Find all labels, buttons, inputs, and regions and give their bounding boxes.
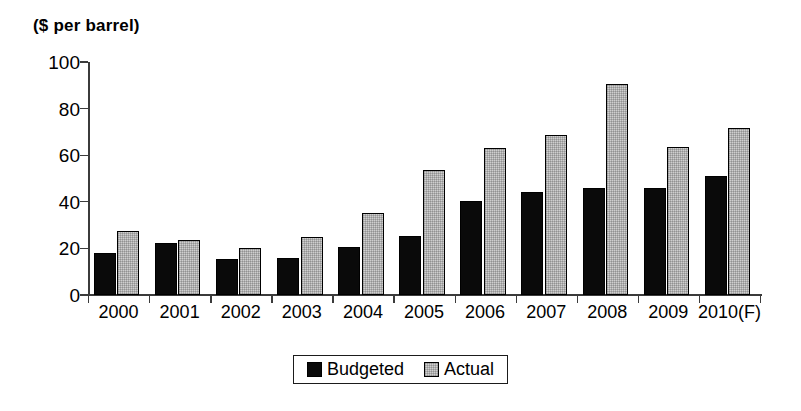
x-tick-mark <box>638 296 639 303</box>
bar-actual-2007 <box>545 135 567 295</box>
x-tick-label: 2004 <box>343 303 383 323</box>
x-tick-label: 2009 <box>648 303 688 323</box>
bar-group <box>88 62 149 295</box>
x-tick-mark <box>271 296 272 303</box>
x-tick-mark <box>88 296 89 303</box>
y-tick-label: 0 <box>34 286 80 305</box>
bar-actual-2009 <box>667 147 689 295</box>
y-axis-tick-labels: 020406080100 <box>26 62 80 295</box>
bar-budgeted-2007 <box>521 192 543 295</box>
bar-group <box>271 62 332 295</box>
y-tick-label: 60 <box>34 146 80 165</box>
x-tick-mark <box>455 296 456 303</box>
bar-group <box>149 62 210 295</box>
y-tick-mark <box>80 248 88 249</box>
bar-actual-2010F <box>728 128 750 295</box>
legend-swatch-icon <box>307 362 322 377</box>
x-tick-mark <box>516 296 517 303</box>
x-tick-label: 2010(F) <box>698 303 761 323</box>
y-tick-mark <box>80 294 88 295</box>
bar-group <box>577 62 638 295</box>
y-tick-label: 20 <box>34 239 80 258</box>
bar-group <box>332 62 393 295</box>
bar-actual-2005 <box>423 170 445 295</box>
chart-legend: BudgetedActual <box>293 355 508 384</box>
bar-budgeted-2006 <box>460 201 482 295</box>
bar-actual-2002 <box>239 248 261 295</box>
bar-budgeted-2000 <box>94 253 116 295</box>
bar-budgeted-2001 <box>155 243 177 295</box>
bar-actual-2001 <box>178 240 200 295</box>
x-tick-label: 2001 <box>160 303 200 323</box>
bar-budgeted-2003 <box>277 258 299 295</box>
legend-entry-budgeted: Budgeted <box>307 360 404 378</box>
x-tick-label: 2008 <box>587 303 627 323</box>
bar-group <box>455 62 516 295</box>
bar-budgeted-2008 <box>583 188 605 295</box>
y-tick-label: 100 <box>34 53 80 72</box>
y-tick-mark <box>80 155 88 156</box>
bar-chart-figure: ($ per barrel) 020406080100 200020012002… <box>0 0 801 411</box>
x-tick-mark <box>210 296 211 303</box>
chart-title: ($ per barrel) <box>33 16 140 36</box>
bar-budgeted-2005 <box>399 236 421 295</box>
x-tick-label: 2005 <box>404 303 444 323</box>
bar-budgeted-2002 <box>216 259 238 295</box>
bar-actual-2008 <box>606 84 628 295</box>
bar-group <box>210 62 271 295</box>
bar-budgeted-2004 <box>338 247 360 295</box>
x-tick-mark <box>149 296 150 303</box>
x-tick-mark <box>332 296 333 303</box>
y-tick-mark <box>80 108 88 109</box>
plot-area <box>88 62 760 295</box>
bar-group <box>699 62 760 295</box>
y-tick-label: 80 <box>34 99 80 118</box>
bar-actual-2000 <box>117 231 139 295</box>
bar-group <box>516 62 577 295</box>
legend-entry-actual: Actual <box>424 360 494 378</box>
x-tick-label: 2000 <box>99 303 139 323</box>
bar-actual-2003 <box>301 237 323 295</box>
bar-group <box>638 62 699 295</box>
x-tick-mark <box>393 296 394 303</box>
y-tick-mark <box>80 61 88 62</box>
legend-swatch-icon <box>424 362 439 377</box>
bar-actual-2004 <box>362 213 384 295</box>
bar-actual-2006 <box>484 148 506 295</box>
x-tick-label: 2002 <box>221 303 261 323</box>
y-tick-label: 40 <box>34 192 80 211</box>
bar-budgeted-2010F <box>705 176 727 295</box>
bar-budgeted-2009 <box>644 188 666 295</box>
x-tick-mark <box>577 296 578 303</box>
x-axis-tick-labels: 2000200120022003200420052006200720082009… <box>88 303 762 329</box>
legend-label: Actual <box>444 360 494 378</box>
legend-label: Budgeted <box>327 360 404 378</box>
x-tick-label: 2003 <box>282 303 322 323</box>
x-tick-label: 2006 <box>465 303 505 323</box>
bar-group <box>393 62 454 295</box>
x-tick-label: 2007 <box>526 303 566 323</box>
y-tick-mark <box>80 201 88 202</box>
